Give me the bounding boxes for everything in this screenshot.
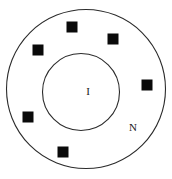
marker-right xyxy=(142,80,153,91)
marker-top xyxy=(67,22,78,33)
annulus-diagram-figure: I N xyxy=(0,0,172,179)
marker-left xyxy=(23,112,34,123)
marker-bottom xyxy=(58,147,69,158)
diagram-canvas: I N xyxy=(0,0,172,179)
inner-region-label: I xyxy=(86,85,90,97)
outer-region-label: N xyxy=(129,121,137,133)
marker-upper-right xyxy=(108,34,119,45)
marker-upper-left xyxy=(33,45,44,56)
